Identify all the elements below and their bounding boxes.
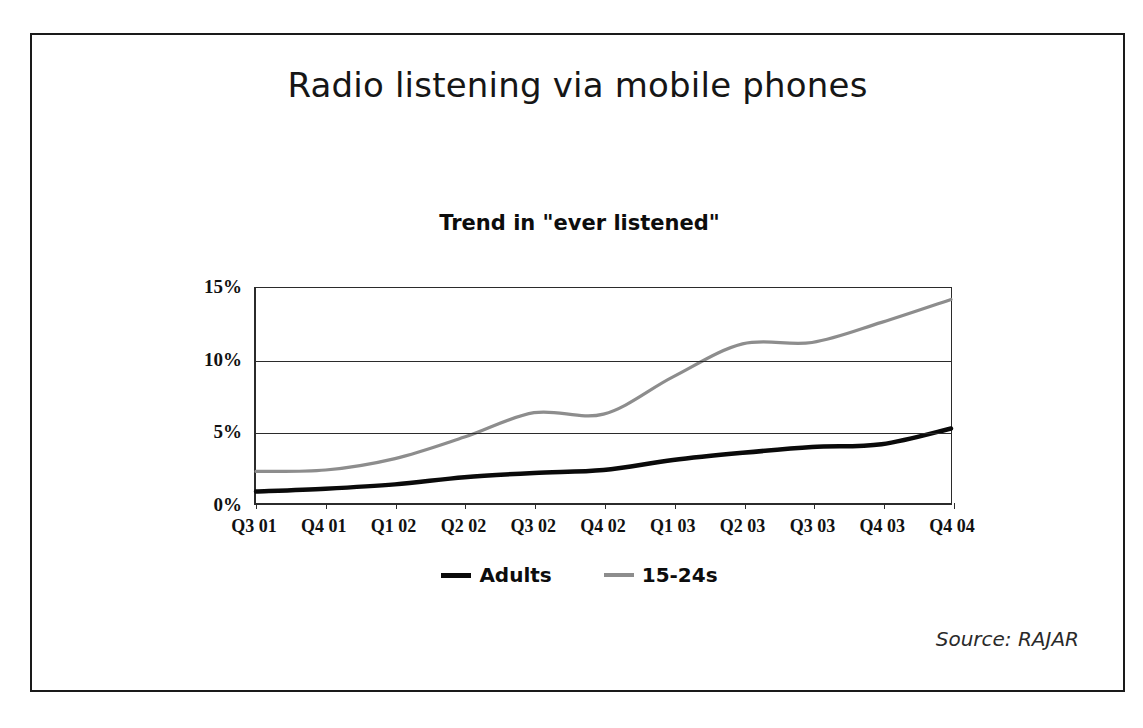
x-axis-tick xyxy=(465,503,466,509)
x-axis-tick xyxy=(396,503,397,509)
x-axis-tick xyxy=(535,503,536,509)
chart-legend: Adults15-24s xyxy=(32,563,1127,587)
x-axis-tick-label: Q2 02 xyxy=(441,516,487,537)
x-axis-tick-label: Q1 03 xyxy=(650,516,696,537)
legend-label: Adults xyxy=(479,563,551,587)
y-axis-tick-label: 5% xyxy=(180,421,242,443)
x-axis-tick-label: Q3 02 xyxy=(510,516,556,537)
x-axis-tick xyxy=(326,503,327,509)
chart-container: Trend in "ever listened" 0%5%10%15% Q3 0… xyxy=(32,35,1127,694)
x-axis-tick xyxy=(884,503,885,509)
legend-item-adults[interactable]: Adults xyxy=(441,563,551,587)
series-lines xyxy=(256,288,951,503)
x-axis-tick-label: Q4 01 xyxy=(301,516,347,537)
source-note: Source: RAJAR xyxy=(936,627,1079,651)
y-axis-tick-labels: 0%5%10%15% xyxy=(180,287,242,505)
x-axis-tick-label: Q2 03 xyxy=(720,516,766,537)
legend-swatch-icon xyxy=(604,573,634,577)
x-axis-tick xyxy=(675,503,676,509)
x-axis-tick-label: Q3 03 xyxy=(790,516,836,537)
y-axis-tick-label: 10% xyxy=(180,349,242,371)
plot-area xyxy=(254,287,952,505)
gridline xyxy=(256,433,951,434)
x-axis-tick-label: Q4 02 xyxy=(580,516,626,537)
x-axis-tick-label: Q4 03 xyxy=(859,516,905,537)
x-axis-tick xyxy=(954,503,955,509)
x-axis-tick-labels: Q3 01Q4 01Q1 02Q2 02Q3 02Q4 02Q1 03Q2 03… xyxy=(254,516,952,542)
chart-title: Trend in "ever listened" xyxy=(32,211,1127,235)
x-axis-tick xyxy=(745,503,746,509)
legend-label: 15-24s xyxy=(642,563,718,587)
x-axis-tick xyxy=(605,503,606,509)
y-axis-tick-label: 15% xyxy=(180,276,242,298)
legend-swatch-icon xyxy=(441,573,471,578)
x-axis-tick xyxy=(814,503,815,509)
x-axis-tick-label: Q4 04 xyxy=(929,516,975,537)
y-axis-tick-label: 0% xyxy=(180,494,242,516)
x-axis-tick-label: Q3 01 xyxy=(231,516,277,537)
slide-frame: Radio listening via mobile phones Trend … xyxy=(30,33,1125,692)
series-line-adults xyxy=(256,428,951,491)
legend-item-15-24s[interactable]: 15-24s xyxy=(604,563,718,587)
x-axis-tick xyxy=(256,503,257,509)
gridline xyxy=(256,361,951,362)
x-axis-tick-label: Q1 02 xyxy=(371,516,417,537)
